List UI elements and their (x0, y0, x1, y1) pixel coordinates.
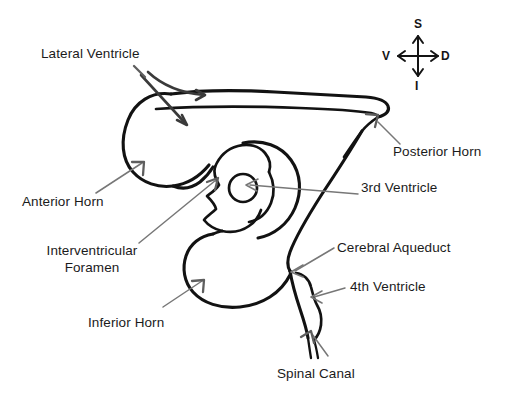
compass-label-ventral: V (382, 49, 390, 63)
label-interventricular-foramen-line1: Interventricular (42, 243, 142, 259)
inferior-horn-connector (213, 231, 222, 234)
cerebral-aqueduct-leader-line (295, 248, 334, 271)
spinal-canal-left-edge (308, 338, 311, 358)
third-ventricle-lower-arm (222, 210, 261, 232)
label-anterior-horn: Anterior Horn (22, 194, 104, 210)
compass-label-dorsal: D (441, 49, 450, 63)
third-ventricle-upper-arm (215, 145, 270, 172)
ventricle-diagram: Lateral Ventricle Posterior Horn Anterio… (0, 0, 507, 402)
compass-label-superior: S (414, 17, 422, 31)
label-interventricular-foramen-line2: Foramen (42, 260, 142, 276)
aqueduct-left-wall (290, 271, 308, 338)
label-4th-ventricle: 4th Ventricle (350, 279, 426, 295)
label-spinal-canal: Spinal Canal (277, 366, 355, 382)
compass-label-inferior: I (415, 79, 418, 93)
lateral-ventricle-bottom-edge (156, 107, 378, 117)
inferior-horn-outline (184, 234, 291, 307)
lateral-ventricle-pointer-line (134, 66, 145, 77)
label-3rd-ventricle: 3rd Ventricle (361, 180, 437, 196)
label-inferior-horn: Inferior Horn (88, 315, 164, 331)
interventricular-foramen-leader-line (139, 180, 216, 243)
posterior-horn-leader-line (378, 122, 400, 144)
third-ventricle-leader-line (250, 185, 358, 194)
label-posterior-horn: Posterior Horn (393, 144, 481, 160)
anterior-horn-leader-line (96, 163, 142, 193)
label-cerebral-aqueduct: Cerebral Aqueduct (337, 240, 451, 256)
interventricular-foramen-arrowhead (207, 178, 218, 190)
label-lateral-ventricle: Lateral Ventricle (41, 46, 140, 62)
